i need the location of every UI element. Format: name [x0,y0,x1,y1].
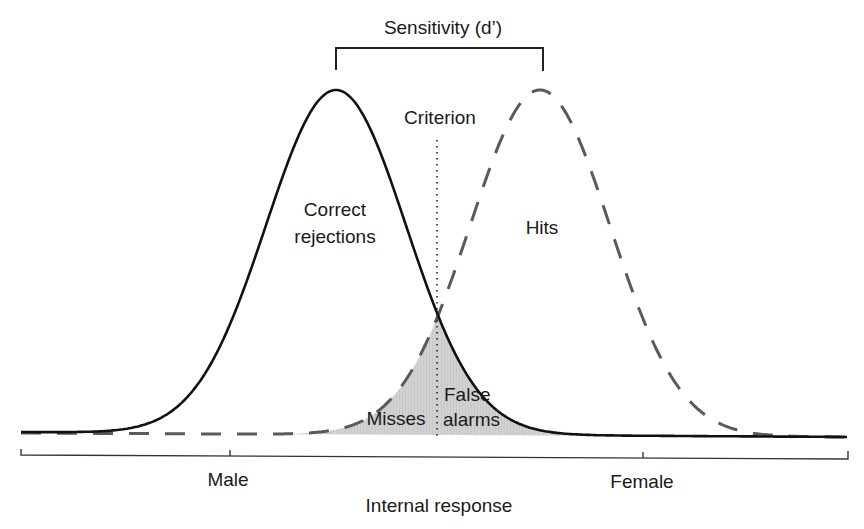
correct-rejections-label-line1: Correct [304,199,367,220]
sensitivity-bracket [336,48,543,71]
female-tick-label: Female [610,471,673,492]
criterion-label: Criterion [404,107,476,128]
overlap-shaded-region [230,316,640,436]
male-tick-label: Male [207,469,248,490]
x-axis [21,449,848,459]
false-alarms-label-line2: alarms [443,409,500,430]
misses-label: Misses [366,408,425,429]
signal-detection-diagram: Sensitivity (d’) Criterion Correct rejec… [0,0,864,529]
x-axis-label: Internal response [366,495,513,516]
hits-label: Hits [526,217,559,238]
correct-rejections-label-line2: rejections [294,226,375,247]
sensitivity-label: Sensitivity (d’) [384,17,502,38]
false-alarms-label-line1: False [444,384,490,405]
